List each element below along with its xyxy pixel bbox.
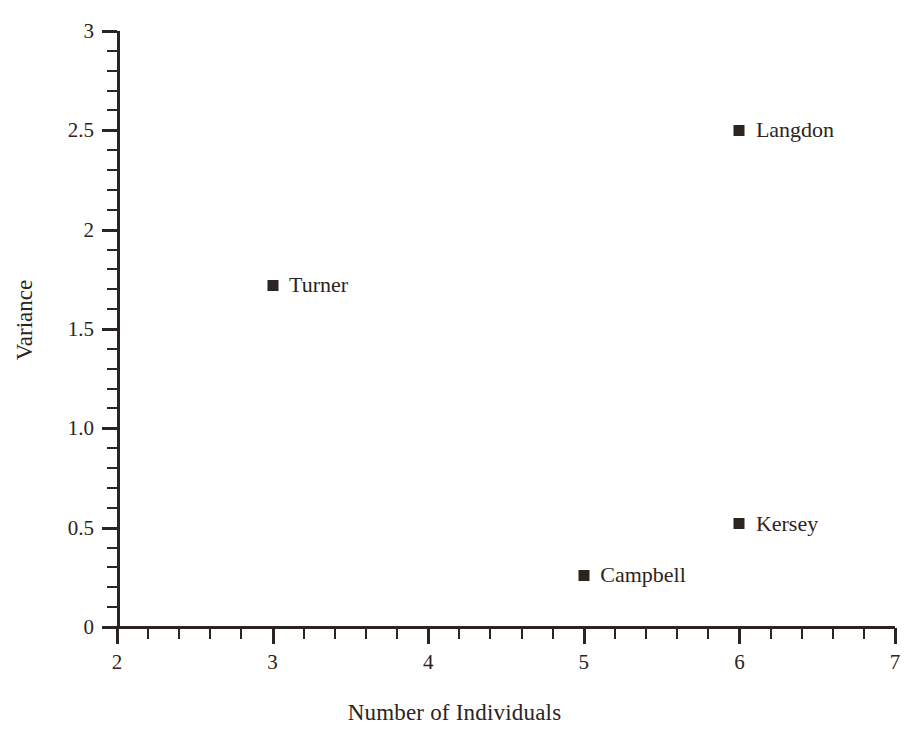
y-tick-major	[102, 129, 117, 132]
x-tick-major	[738, 628, 741, 644]
x-tick-minor	[303, 628, 305, 639]
y-tick-minor	[107, 407, 117, 409]
y-tick-minor	[107, 308, 117, 310]
x-tick-minor	[614, 628, 616, 639]
data-point[interactable]: Kersey	[734, 513, 818, 535]
y-tick-minor	[107, 467, 117, 469]
y-tick-minor	[107, 268, 117, 270]
x-axis-title: Number of Individuals	[0, 700, 909, 726]
y-tick-minor	[107, 348, 117, 350]
x-tick-major	[116, 628, 119, 644]
x-tick-major	[894, 628, 897, 644]
x-tick-minor	[521, 628, 523, 639]
x-tick-minor	[178, 628, 180, 639]
y-tick-major	[102, 527, 117, 530]
x-tick-major	[272, 628, 275, 644]
data-point[interactable]: Turner	[267, 274, 348, 296]
y-tick-minor	[107, 50, 117, 52]
y-tick-minor	[107, 149, 117, 151]
data-point-label: Kersey	[756, 513, 818, 535]
y-axis-title-text: Variance	[12, 280, 38, 360]
x-tick-label: 6	[734, 652, 745, 673]
y-tick-minor	[107, 288, 117, 290]
x-tick-minor	[209, 628, 211, 639]
x-tick-minor	[770, 628, 772, 639]
x-axis-line	[117, 626, 895, 629]
y-tick-minor	[107, 209, 117, 211]
data-point-marker-square	[578, 570, 589, 581]
x-tick-label: 3	[267, 652, 278, 673]
y-tick-minor	[107, 566, 117, 568]
y-tick-minor	[107, 169, 117, 171]
x-tick-minor	[801, 628, 803, 639]
x-tick-label: 7	[890, 652, 901, 673]
x-tick-minor	[645, 628, 647, 639]
data-point-label: Turner	[289, 274, 348, 296]
x-tick-minor	[552, 628, 554, 639]
x-tick-minor	[334, 628, 336, 639]
y-tick-minor	[107, 447, 117, 449]
y-tick-minor	[107, 90, 117, 92]
y-tick-minor	[107, 189, 117, 191]
x-tick-minor	[676, 628, 678, 639]
y-tick-minor	[107, 368, 117, 370]
x-tick-minor	[147, 628, 149, 639]
y-tick-minor	[107, 70, 117, 72]
y-tick-major	[102, 30, 117, 33]
y-tick-minor	[107, 606, 117, 608]
y-tick-major	[102, 626, 117, 629]
data-point-label: Langdon	[756, 119, 834, 141]
y-tick-minor	[107, 586, 117, 588]
x-tick-label: 2	[112, 652, 123, 673]
x-tick-minor	[489, 628, 491, 639]
y-tick-minor	[107, 388, 117, 390]
x-tick-major	[583, 628, 586, 644]
x-tick-minor	[240, 628, 242, 639]
data-point-marker-square	[734, 125, 745, 136]
x-tick-label: 5	[579, 652, 590, 673]
y-axis-line	[117, 31, 120, 629]
y-tick-minor	[107, 507, 117, 509]
scatter-plot-figure: 00.51.01.522.53 234567 LangdonTurnerKers…	[0, 0, 909, 748]
x-tick-minor	[396, 628, 398, 639]
y-tick-major	[102, 328, 117, 331]
data-point-label: Campbell	[600, 564, 686, 586]
data-point[interactable]: Langdon	[734, 119, 834, 141]
x-tick-minor	[365, 628, 367, 639]
y-tick-major	[102, 427, 117, 430]
data-point-marker-square	[734, 518, 745, 529]
x-tick-label: 4	[423, 652, 434, 673]
y-tick-minor	[107, 109, 117, 111]
y-tick-major	[102, 229, 117, 232]
x-tick-minor	[832, 628, 834, 639]
y-axis-title: Variance	[8, 0, 42, 640]
y-tick-minor	[107, 487, 117, 489]
x-tick-minor	[707, 628, 709, 639]
y-tick-minor	[107, 547, 117, 549]
x-tick-major	[427, 628, 430, 644]
x-tick-minor	[863, 628, 865, 639]
y-tick-minor	[107, 249, 117, 251]
x-tick-minor	[458, 628, 460, 639]
data-point-marker-square	[267, 280, 278, 291]
data-point[interactable]: Campbell	[578, 564, 686, 586]
